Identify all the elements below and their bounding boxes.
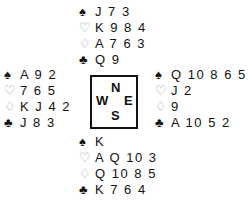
heart-icon: ♡ [4, 83, 20, 99]
spade-icon: ♠ [155, 67, 171, 83]
north-hearts-row: ♡ K 9 8 4 [79, 20, 147, 36]
north-hand: ♠ J 7 3 ♡ K 9 8 4 ♢ A 7 6 3 ♣ Q 9 [79, 4, 147, 68]
north-spades: J 7 3 [95, 4, 131, 20]
west-hearts-row: ♡ 7 6 5 [4, 83, 71, 99]
club-icon: ♣ [4, 115, 20, 131]
south-diamonds: Q 10 8 5 [95, 166, 157, 182]
east-hearts: J 2 [171, 83, 193, 99]
south-hearts: A Q 10 3 [95, 150, 158, 166]
diamond-icon: ♢ [79, 36, 95, 52]
south-spades: K [95, 134, 105, 150]
compass-east: E [124, 93, 133, 108]
club-icon: ♣ [79, 52, 95, 68]
compass-south: S [111, 108, 120, 123]
south-clubs-row: ♣ K 7 6 4 [79, 182, 158, 198]
west-diamonds-row: ♢ K J 4 2 [4, 99, 71, 115]
south-hand: ♠ K ♡ A Q 10 3 ♢ Q 10 8 5 ♣ K 7 6 4 [79, 134, 158, 198]
east-spades: Q 10 8 6 5 4 [171, 67, 251, 83]
west-clubs-row: ♣ J 8 3 [4, 115, 71, 131]
east-hearts-row: ♡ J 2 [155, 83, 251, 99]
east-spades-row: ♠ Q 10 8 6 5 4 [155, 67, 251, 83]
compass-west: W [96, 93, 108, 108]
diamond-icon: ♢ [79, 166, 95, 182]
club-icon: ♣ [79, 182, 95, 198]
spade-icon: ♠ [79, 4, 95, 20]
diamond-icon: ♢ [4, 99, 20, 115]
west-spades-row: ♠ A 9 2 [4, 67, 71, 83]
north-spades-row: ♠ J 7 3 [79, 4, 147, 20]
west-clubs: J 8 3 [20, 115, 56, 131]
west-diamonds: K J 4 2 [20, 99, 71, 115]
diamond-icon: ♢ [155, 99, 171, 115]
north-clubs-row: ♣ Q 9 [79, 52, 147, 68]
east-diamonds: 9 [171, 99, 180, 115]
east-clubs: A 10 5 2 [171, 115, 231, 131]
north-diamonds-row: ♢ A 7 6 3 [79, 36, 147, 52]
west-spades: A 9 2 [20, 67, 57, 83]
south-clubs: K 7 6 4 [95, 182, 147, 198]
south-hearts-row: ♡ A Q 10 3 [79, 150, 158, 166]
south-diamonds-row: ♢ Q 10 8 5 [79, 166, 158, 182]
north-hearts: K 9 8 4 [95, 20, 147, 36]
north-clubs: Q 9 [95, 52, 120, 68]
heart-icon: ♡ [79, 150, 95, 166]
east-hand: ♠ Q 10 8 6 5 4 ♡ J 2 ♢ 9 ♣ A 10 5 2 [155, 67, 251, 131]
east-clubs-row: ♣ A 10 5 2 [155, 115, 251, 131]
compass-north: N [111, 80, 120, 95]
west-hearts: 7 6 5 [20, 83, 56, 99]
east-diamonds-row: ♢ 9 [155, 99, 251, 115]
heart-icon: ♡ [79, 20, 95, 36]
compass-box: N W E S [90, 75, 138, 129]
spade-icon: ♠ [79, 134, 95, 150]
south-spades-row: ♠ K [79, 134, 158, 150]
heart-icon: ♡ [155, 83, 171, 99]
west-hand: ♠ A 9 2 ♡ 7 6 5 ♢ K J 4 2 ♣ J 8 3 [4, 67, 71, 131]
north-diamonds: A 7 6 3 [95, 36, 146, 52]
spade-icon: ♠ [4, 67, 20, 83]
club-icon: ♣ [155, 115, 171, 131]
